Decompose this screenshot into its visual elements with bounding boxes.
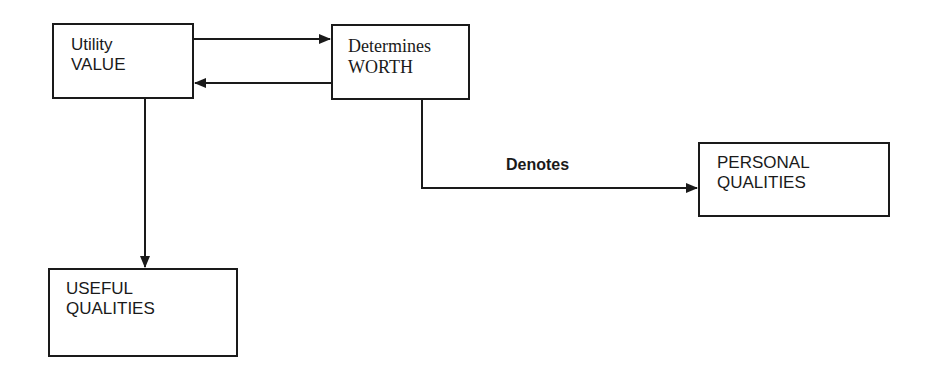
node-personal-line2: QUALITIES	[717, 173, 810, 193]
node-worth-line2: WORTH	[348, 57, 431, 78]
node-utility-value: Utility VALUE	[52, 23, 194, 99]
node-personal-qualities: PERSONAL QUALITIES	[698, 142, 890, 217]
node-utility-line1: Utility	[71, 35, 126, 55]
node-determines-worth: Determines WORTH	[331, 24, 470, 100]
node-utility-line2: VALUE	[71, 55, 126, 75]
node-personal-line1: PERSONAL	[717, 153, 810, 173]
node-useful-line1: USEFUL	[66, 279, 155, 299]
edge-label-denotes: Denotes	[506, 156, 569, 174]
arrow-worth-to-personal	[422, 100, 697, 188]
node-worth-line1: Determines	[348, 36, 431, 57]
node-useful-qualities: USEFUL QUALITIES	[48, 268, 238, 357]
node-useful-line2: QUALITIES	[66, 299, 155, 319]
